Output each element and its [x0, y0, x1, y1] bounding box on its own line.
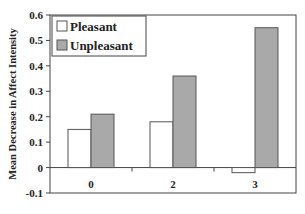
legend-swatch-pleasant	[57, 21, 67, 31]
x-tick-label: 2	[170, 178, 176, 190]
y-tick-label: 0	[38, 162, 44, 174]
legend-label-pleasant: Pleasant	[70, 19, 118, 34]
y-tick-label: 0.5	[29, 34, 43, 46]
y-axis: -0.100.10.20.30.40.50.6	[26, 9, 50, 199]
y-tick-label: 0.2	[29, 111, 43, 123]
y-tick-label: 0.4	[29, 60, 43, 72]
bar-pleasant	[150, 122, 173, 168]
legend-label-unpleasant: Unpleasant	[70, 38, 134, 53]
x-axis-labels: 023	[88, 178, 258, 190]
y-axis-title: Mean Decrease in Affect Intensity	[7, 28, 18, 180]
bar-chart: Mean Decrease in Affect Intensity -0.100…	[0, 0, 305, 214]
bar-pleasant	[68, 129, 91, 167]
bar-pleasant	[232, 168, 255, 173]
y-tick-label: 0.6	[29, 9, 43, 21]
y-tick-label: 0.1	[29, 136, 43, 148]
y-tick-label: -0.1	[26, 187, 43, 199]
x-tick-label: 0	[88, 178, 94, 190]
x-tick-label: 3	[252, 178, 258, 190]
bar-unpleasant	[255, 28, 278, 168]
legend-swatch-unpleasant	[57, 40, 67, 50]
y-tick-label: 0.3	[29, 85, 43, 97]
bar-unpleasant	[173, 76, 196, 168]
bar-unpleasant	[91, 114, 114, 167]
legend: PleasantUnpleasant	[52, 16, 146, 56]
